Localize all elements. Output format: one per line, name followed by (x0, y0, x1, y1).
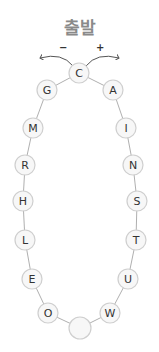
node-a: A (103, 80, 123, 100)
node-w: W (100, 303, 120, 323)
node-label: L (22, 234, 29, 247)
node-label: U (124, 273, 132, 286)
node-label: G (43, 84, 52, 97)
node-c: C (69, 63, 89, 83)
node-label: A (109, 84, 117, 97)
node-o: O (38, 303, 58, 323)
node-label: M (28, 122, 38, 135)
node-label: C (75, 67, 83, 80)
node-n: N (123, 155, 143, 175)
node-i: I (116, 118, 136, 138)
node-m: M (23, 118, 43, 138)
node-label: H (19, 195, 27, 208)
cycle-diagram: CAINSTUWOELHRMG (0, 0, 159, 352)
node-t: T (126, 230, 146, 250)
node-label: N (129, 159, 137, 172)
node-empty (69, 317, 91, 339)
node-u: U (118, 269, 138, 289)
node-label: I (124, 122, 127, 135)
plus-arrow (86, 56, 119, 66)
node-label: S (134, 195, 141, 208)
node-label: W (105, 307, 116, 320)
node-h: H (13, 191, 33, 211)
node-l: L (15, 230, 35, 250)
node-s: S (127, 191, 147, 211)
node-g: G (37, 80, 57, 100)
node-label: T (132, 234, 140, 247)
minus-arrow (40, 56, 73, 66)
node-label: R (21, 159, 29, 172)
node-label: E (29, 273, 36, 286)
node-r: R (15, 155, 35, 175)
node-e: E (22, 269, 42, 289)
node-label: O (44, 307, 53, 320)
